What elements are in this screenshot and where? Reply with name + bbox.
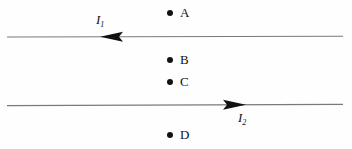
wire-top-line: [7, 36, 343, 37]
wires-and-arrows-diagram: [0, 0, 352, 149]
physics-figure-two-wires: I1 I2 A B C D: [0, 0, 352, 149]
point-marker-a-dot: [167, 10, 173, 16]
point-marker-d-dot: [167, 132, 173, 138]
point-marker-b-dot: [167, 57, 173, 63]
current-label-i2-subscript: 2: [242, 118, 246, 127]
current-label-i1: I1: [96, 13, 104, 28]
point-label-c: C: [180, 75, 189, 88]
wire-bottom-arrowhead-right-icon: [223, 100, 246, 110]
wire-top-arrowhead-left-icon: [100, 32, 123, 42]
point-label-b: B: [180, 53, 189, 66]
point-marker-c-dot: [167, 79, 173, 85]
wire-bottom-line: [7, 104, 343, 105]
current-label-i1-subscript: 1: [100, 20, 104, 29]
point-label-d: D: [180, 128, 189, 141]
current-label-i2: I2: [238, 111, 246, 126]
point-label-a: A: [180, 6, 189, 19]
